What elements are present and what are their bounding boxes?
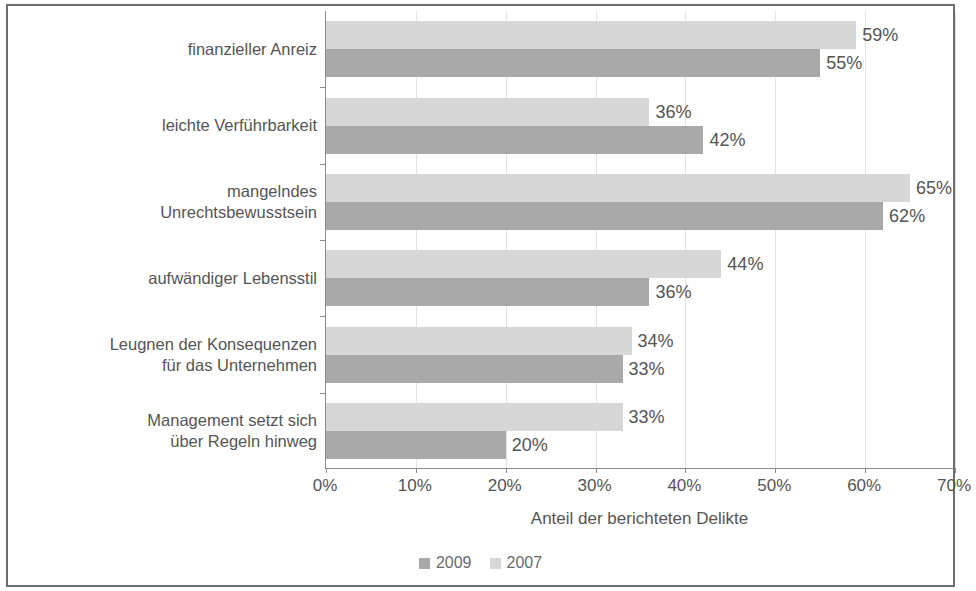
bar-value-label: 34%: [638, 327, 674, 355]
category-label: aufwändiger Lebensstil: [0, 268, 317, 289]
bar-2009: [326, 355, 623, 383]
bar-2007: [326, 21, 856, 49]
legend-swatch-icon: [419, 558, 430, 569]
value-axis-tick-label: 60%: [832, 476, 896, 496]
bar-value-label: 36%: [655, 98, 691, 126]
value-axis-tick: [326, 468, 327, 473]
value-axis-title: Anteil der berichteten Delikte: [325, 509, 954, 529]
bar-2007: [326, 403, 623, 431]
category-label: leichte Verführbarkeit: [0, 115, 317, 136]
gridline: [596, 11, 597, 468]
category-label: mangelndes Unrechtsbewusstsein: [0, 181, 317, 223]
value-axis-tick: [865, 468, 866, 473]
category-label: Leugnen der Konsequenzen für das Unterne…: [0, 334, 317, 376]
value-axis-tick: [596, 468, 597, 473]
gridline: [955, 11, 956, 468]
bar-2007: [326, 250, 721, 278]
gridline: [416, 11, 417, 468]
category-axis-tick: [320, 393, 326, 394]
value-axis-tick-label: 0%: [293, 476, 357, 496]
value-axis-tick: [775, 468, 776, 473]
value-axis-tick: [416, 468, 417, 473]
value-axis-tick: [955, 468, 956, 473]
legend-item-2009[interactable]: 2009: [419, 554, 472, 572]
bar-2009: [326, 278, 649, 306]
bar-value-label: 20%: [512, 431, 548, 459]
category-label: finanzieller Anreiz: [0, 39, 317, 60]
gridline: [775, 11, 776, 468]
category-axis-tick: [320, 316, 326, 317]
plot-area: 59%55%36%42%65%62%44%36%34%33%33%20%: [325, 11, 954, 469]
category-label: Management setzt sich über Regeln hinweg: [0, 410, 317, 452]
bar-value-label: 59%: [862, 21, 898, 49]
value-axis-tick-label: 10%: [383, 476, 447, 496]
bar-value-label: 55%: [826, 49, 862, 77]
legend-item-2007[interactable]: 2007: [490, 554, 543, 572]
gridline: [506, 11, 507, 468]
value-axis-tick: [506, 468, 507, 473]
bar-2009: [326, 431, 506, 459]
bar-value-label: 42%: [709, 126, 745, 154]
value-axis-tick-label: 50%: [742, 476, 806, 496]
bar-value-label: 62%: [889, 202, 925, 230]
bar-value-label: 33%: [629, 403, 665, 431]
bar-2007: [326, 327, 632, 355]
value-axis-tick-label: 30%: [563, 476, 627, 496]
category-axis-tick: [320, 164, 326, 165]
bar-2009: [326, 49, 820, 77]
gridline: [865, 11, 866, 468]
value-axis-tick-label: 70%: [922, 476, 976, 496]
value-axis-tick-label: 20%: [473, 476, 537, 496]
grouped-bar-chart: finanzieller Anreizleichte Verführbarkei…: [8, 6, 953, 585]
legend-swatch-icon: [490, 558, 501, 569]
legend-label: 2007: [507, 554, 543, 572]
bar-2007: [326, 174, 910, 202]
bar-2009: [326, 202, 883, 230]
bar-value-label: 36%: [655, 278, 691, 306]
category-axis-tick: [320, 87, 326, 88]
category-axis-tick: [320, 240, 326, 241]
chart-legend: 20092007: [8, 554, 953, 572]
value-axis-tick-label: 40%: [652, 476, 716, 496]
bar-2009: [326, 126, 703, 154]
value-axis-tick: [685, 468, 686, 473]
chart-figure-frame: finanzieller Anreizleichte Verführbarkei…: [6, 4, 955, 587]
legend-label: 2009: [436, 554, 472, 572]
bar-value-label: 65%: [916, 174, 952, 202]
bar-value-label: 33%: [629, 355, 665, 383]
gridline: [685, 11, 686, 468]
bar-2007: [326, 98, 649, 126]
bar-value-label: 44%: [727, 250, 763, 278]
